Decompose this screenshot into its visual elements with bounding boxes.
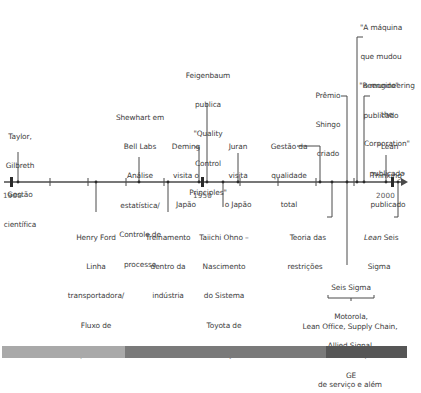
event-text: Taylor, bbox=[2, 132, 38, 142]
event-text: estatística/ bbox=[112, 201, 168, 211]
event-text: Feigenbaum bbox=[183, 71, 233, 81]
event-text: Taiichi Ohno – bbox=[196, 233, 252, 243]
event-text: visita bbox=[222, 171, 254, 181]
event-text: criado bbox=[313, 149, 343, 159]
bottom-bar-segment-2 bbox=[125, 346, 326, 358]
event-text: de serviço e além bbox=[290, 380, 410, 390]
event-text: publicado bbox=[368, 200, 408, 210]
event-text: Shewhart em bbox=[112, 113, 168, 123]
event-text: Thinking" bbox=[368, 171, 408, 181]
event-text: Prêmio bbox=[313, 91, 343, 101]
event-text: Gilbreth bbox=[2, 161, 38, 171]
event-text: Seis bbox=[381, 233, 398, 242]
event-shingo: Prêmio Shingo criado bbox=[313, 71, 343, 179]
event-text-italic: Lean bbox=[364, 233, 381, 242]
event-text: publica bbox=[183, 100, 233, 110]
event-text: "Reengineering bbox=[352, 81, 421, 91]
event-text: restrições bbox=[284, 262, 326, 272]
event-text: Fluxo de bbox=[64, 321, 128, 331]
bottom-bar-segment-3 bbox=[326, 346, 407, 358]
event-text: Treinamento bbox=[142, 233, 194, 243]
event-text: total bbox=[267, 200, 311, 210]
event-text: the bbox=[352, 110, 421, 120]
event-theory-of-constraints: Teoria das restrições bbox=[284, 213, 326, 291]
event-text: Toyota de bbox=[196, 321, 252, 331]
event-text: Gestão da bbox=[267, 142, 311, 152]
event-text: Lean Office, Supply Chain, bbox=[290, 322, 410, 332]
event-text: o Japão bbox=[222, 200, 254, 210]
event-text: transportadora/ bbox=[64, 291, 128, 301]
event-text: "A máquina bbox=[355, 23, 407, 33]
event-text: Juran bbox=[222, 142, 254, 152]
event-text: Análise bbox=[112, 171, 168, 181]
event-text: Linha bbox=[64, 262, 128, 272]
event-text: indústria bbox=[142, 291, 194, 301]
event-text: Seis Sigma bbox=[321, 283, 381, 293]
event-text: Shingo bbox=[313, 120, 343, 130]
event-text: dentro da bbox=[142, 262, 194, 272]
event-text: Teoria das bbox=[284, 233, 326, 243]
event-text: qualidade bbox=[267, 171, 311, 181]
bottom-bar-segment-1 bbox=[2, 346, 125, 358]
event-taylor: Taylor, Gilbreth Gestão científica bbox=[2, 112, 38, 249]
event-text: Gestão bbox=[2, 190, 38, 200]
event-text: Henry Ford bbox=[64, 233, 128, 243]
event-text: do Sistema bbox=[196, 291, 252, 301]
event-twi: Treinamento dentro da indústria bbox=[142, 213, 194, 321]
event-text: Lean Seis bbox=[364, 233, 394, 243]
event-text: Nascimento bbox=[196, 262, 252, 272]
event-text: Bell Labs bbox=[112, 142, 168, 152]
event-text: científica bbox=[2, 220, 38, 230]
event-text: "Lean bbox=[368, 142, 408, 152]
